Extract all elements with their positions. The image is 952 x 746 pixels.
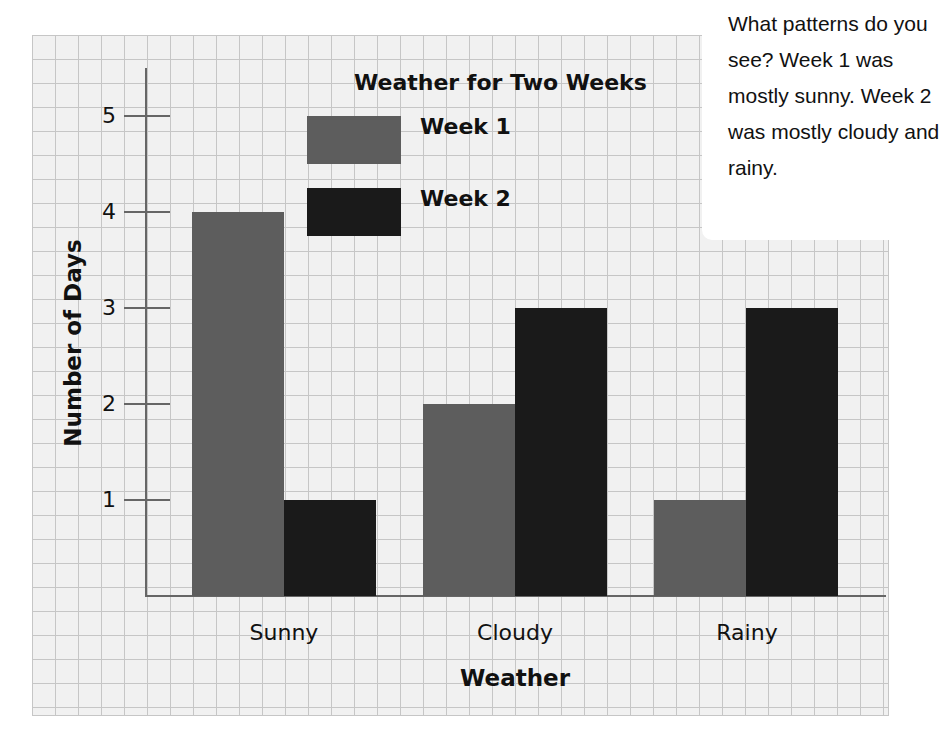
y-tick-3 bbox=[124, 307, 170, 309]
bar-cloudy-week2 bbox=[515, 308, 607, 596]
bar-cloudy-week1 bbox=[423, 404, 515, 596]
x-category-rainy: Rainy bbox=[657, 620, 837, 645]
x-axis-label: Weather bbox=[415, 665, 615, 691]
callout-text: What patterns do you see? Week 1 was mos… bbox=[728, 6, 952, 186]
x-category-sunny: Sunny bbox=[194, 620, 374, 645]
legend-label-week1: Week 1 bbox=[420, 114, 511, 139]
chart-title: Weather for Two Weeks bbox=[354, 70, 647, 95]
bar-sunny-week2 bbox=[284, 500, 376, 596]
bar-rainy-week2 bbox=[746, 308, 838, 596]
y-tick-5 bbox=[124, 115, 170, 117]
bar-sunny-week1 bbox=[192, 212, 284, 596]
x-category-cloudy: Cloudy bbox=[425, 620, 605, 645]
y-tick-4 bbox=[124, 211, 170, 213]
y-tick-label-4: 4 bbox=[86, 201, 116, 223]
legend-label-week2: Week 2 bbox=[420, 186, 511, 211]
legend-swatch-week2 bbox=[307, 188, 401, 236]
y-axis-line bbox=[145, 68, 147, 597]
y-tick-1 bbox=[124, 499, 170, 501]
y-axis-label: Number of Days bbox=[60, 223, 86, 463]
legend-swatch-week1 bbox=[307, 116, 401, 164]
bar-rainy-week1 bbox=[654, 500, 746, 596]
y-tick-label-5: 5 bbox=[86, 105, 116, 127]
y-tick-label-1: 1 bbox=[86, 489, 116, 511]
y-tick-label-3: 3 bbox=[86, 297, 116, 319]
y-tick-2 bbox=[124, 403, 170, 405]
y-tick-label-2: 2 bbox=[86, 393, 116, 415]
